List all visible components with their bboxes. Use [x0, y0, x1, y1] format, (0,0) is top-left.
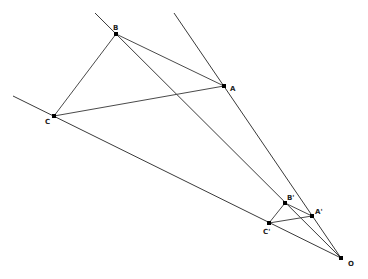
point-C	[52, 114, 56, 118]
label-O: O	[348, 260, 354, 268]
ray-OB	[95, 13, 341, 258]
label-A-prime: A'	[315, 208, 323, 216]
segment-C-prime-A-prime	[269, 216, 312, 223]
homothety-diagram: A B C A' B' C' O	[0, 0, 368, 279]
ray-OC	[13, 96, 341, 258]
label-B: B	[113, 24, 118, 32]
ray-OA	[174, 13, 341, 258]
point-B	[114, 32, 118, 36]
point-O	[339, 256, 343, 260]
segment-AB	[116, 34, 224, 86]
segment-B-prime-C-prime	[269, 203, 285, 223]
segment-BC	[54, 34, 116, 116]
segment-CA	[54, 86, 224, 116]
label-C-prime: C'	[263, 228, 270, 236]
point-C-prime	[267, 221, 271, 225]
label-C: C	[45, 118, 50, 126]
point-A	[222, 84, 226, 88]
label-B-prime: B'	[287, 194, 294, 202]
point-A-prime	[310, 214, 314, 218]
label-A: A	[230, 85, 236, 93]
